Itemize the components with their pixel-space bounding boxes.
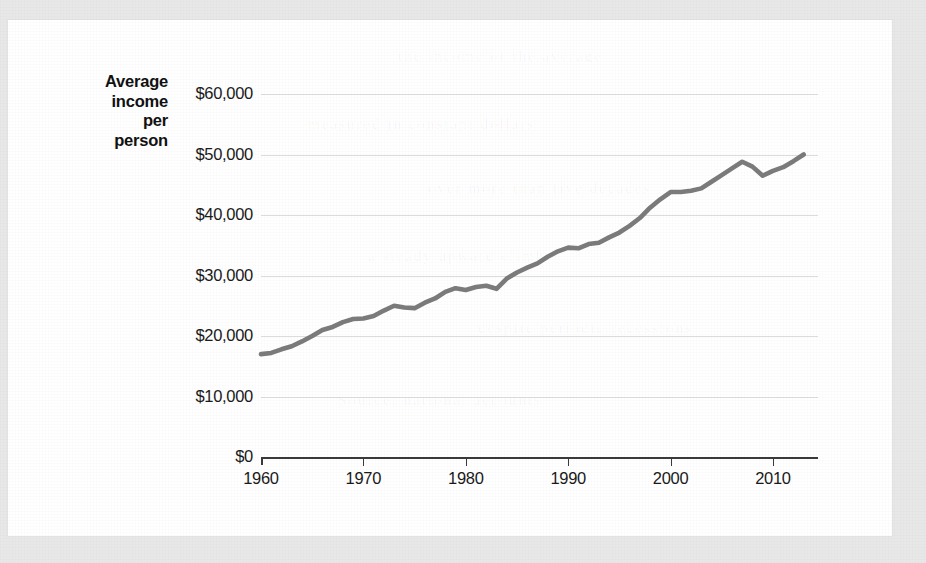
series-line [8,20,892,536]
figure-card: the income of the average measured in co… [8,20,892,536]
line-chart: $0$10,000$20,000$30,000$40,000$50,000$60… [8,20,892,536]
